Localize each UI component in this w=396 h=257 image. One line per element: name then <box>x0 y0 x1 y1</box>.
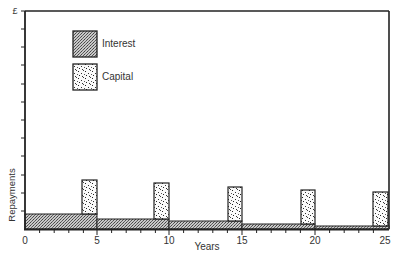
x-tick-label-10: 10 <box>163 235 175 246</box>
y-axis-title: Repayments <box>6 168 17 222</box>
x-tick-label-5: 5 <box>94 235 100 246</box>
capital-bar-20 <box>301 190 315 224</box>
legend-swatch-capital <box>73 64 97 90</box>
capital-bar-5 <box>82 180 97 214</box>
interest-block-15-20 <box>242 224 315 229</box>
interest-block-10-15 <box>169 221 242 229</box>
x-tick-label-15: 15 <box>236 235 248 246</box>
capital-bar-10 <box>154 183 169 219</box>
legend: Interest Capital <box>73 31 136 90</box>
interest-block-0-5 <box>25 214 97 229</box>
x-tick-label-0: 0 <box>22 235 28 246</box>
x-axis-title: Years <box>194 241 219 252</box>
y-unit-label: £ <box>12 6 17 16</box>
legend-swatch-interest <box>73 31 97 57</box>
capital-bar-25 <box>373 192 388 226</box>
capital-bar-15 <box>228 187 242 221</box>
interest-block-5-10 <box>97 219 169 229</box>
legend-label-capital: Capital <box>102 71 133 82</box>
legend-label-interest: Interest <box>102 38 136 49</box>
interest-series <box>25 214 389 229</box>
x-tick-label-25: 25 <box>379 235 391 246</box>
repayments-chart: 0 5 10 15 20 25 Years £ Repayments Inter… <box>0 0 396 257</box>
x-tick-label-20: 20 <box>309 235 321 246</box>
